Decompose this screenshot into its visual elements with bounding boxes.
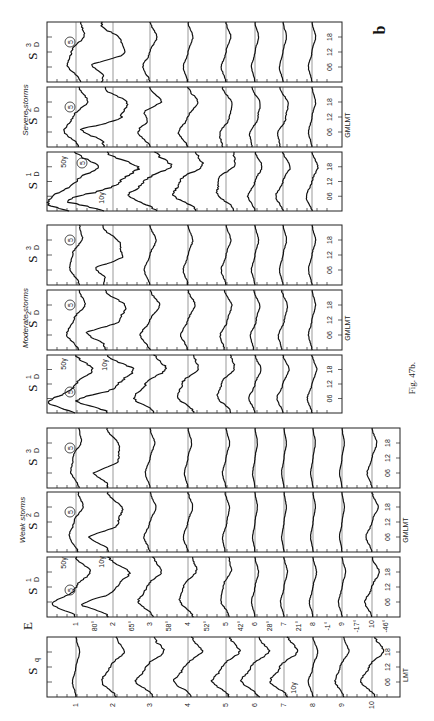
latitude-label: -46° — [382, 619, 389, 632]
panel-sup: 3 — [25, 449, 32, 453]
hour-label-06: 06 — [326, 128, 333, 136]
station-number-1: 1 — [72, 622, 79, 626]
station-trace — [92, 22, 125, 82]
panel-symbol: S — [25, 384, 40, 391]
panel-symbol: S — [25, 255, 40, 262]
station-trace — [52, 557, 90, 617]
moderate-sd1: 061218550γ10γS1D — [25, 355, 342, 413]
panel-symbol: S — [25, 587, 40, 594]
panel-symbol: S — [25, 458, 40, 465]
station-trace — [96, 225, 123, 285]
panel-sub: D — [33, 448, 40, 453]
panel-sup: 2 — [25, 311, 32, 315]
panel-symbol: S — [25, 320, 40, 327]
latitude-label: -1° — [324, 621, 331, 630]
severe-sd1: 061218550γ10γS1D — [25, 152, 342, 211]
component-e-label: E — [20, 622, 35, 630]
hour-label-12: 12 — [326, 113, 333, 121]
circled-marker-label: 5 — [67, 105, 74, 109]
hour-label-06: 06 — [326, 266, 333, 274]
moderate-storms-title: Moderate storms — [21, 288, 30, 348]
scale-note: 50γ — [60, 358, 68, 370]
circled-marker-label: 5 — [67, 238, 74, 242]
panel-sub: D — [33, 107, 40, 112]
hour-label-18: 18 — [384, 648, 391, 656]
panel-frame — [47, 355, 342, 413]
hour-label-18: 18 — [326, 366, 333, 374]
figure-caption: Fig. 47b. — [407, 362, 417, 394]
hour-label-18: 18 — [326, 236, 333, 244]
moderate-sd3: 0612185S3D — [25, 225, 342, 285]
sq-station-number-10: 10 — [368, 701, 375, 709]
latitude-label: 21° — [295, 621, 302, 632]
hour-label-12: 12 — [384, 583, 391, 591]
latitude-label: 52° — [203, 621, 210, 632]
panel-label-moderate-sd1: S1D — [25, 374, 40, 392]
hour-label-18: 18 — [384, 568, 391, 576]
panel-sup: 1 — [25, 173, 32, 177]
panel-symbol: S — [25, 117, 40, 124]
hour-label-18: 18 — [384, 439, 391, 447]
panel-sup: 2 — [25, 513, 32, 517]
time-axis-label: GMLMT — [402, 517, 409, 543]
station-number-8: 8 — [309, 622, 316, 626]
station-number-9: 9 — [338, 622, 345, 626]
sq-station-number-3: 3 — [146, 703, 153, 707]
panel-frame — [47, 225, 342, 285]
panel-sup: 2 — [25, 108, 32, 112]
sq-station-number-1: 1 — [72, 703, 79, 707]
panel-frame — [47, 152, 342, 211]
panel-label-severe-sd1: S1D — [25, 171, 40, 189]
panel-sup: 1 — [25, 375, 32, 379]
hour-label-06: 06 — [326, 63, 333, 71]
sq-station-number-7: 7 — [280, 703, 287, 707]
circled-marker-label: 5 — [79, 161, 86, 165]
sq-station-number-6: 6 — [251, 703, 258, 707]
station-trace — [138, 557, 162, 617]
hour-label-12: 12 — [384, 454, 391, 462]
latitude-label: -17° — [353, 619, 360, 632]
panel-sub: D — [33, 171, 40, 176]
weak-sd1: 061218550γ10γS1D — [25, 556, 400, 617]
scale-note: 10γ — [98, 192, 106, 204]
sq-station-number-4: 4 — [184, 703, 191, 707]
panel-symbol: S — [25, 522, 40, 529]
panel-symbol: S — [25, 182, 40, 189]
station-trace — [82, 557, 131, 617]
circled-marker-label: 5 — [67, 40, 74, 44]
hour-label-18: 18 — [326, 163, 333, 171]
hour-label-12: 12 — [326, 380, 333, 388]
moderate-sd2: 0612185S2DGMLMT — [25, 290, 351, 350]
station-trace — [89, 492, 123, 552]
hour-label-06: 06 — [384, 533, 391, 541]
station-trace — [93, 428, 119, 488]
scale-note: 10γ — [290, 682, 298, 694]
hour-label-12: 12 — [384, 663, 391, 671]
hour-label-12: 12 — [384, 518, 391, 526]
latitude-label: 58° — [165, 621, 172, 632]
latitude-label: 28° — [266, 621, 273, 632]
figure-letter: b — [371, 25, 388, 34]
circled-marker-label: 5 — [67, 303, 74, 307]
scale-note: 50γ — [60, 156, 68, 168]
panels-container: 0612185S3D0612185S2DGMLMT061218550γ10γS1… — [25, 22, 409, 709]
hour-label-06: 06 — [384, 469, 391, 477]
figure-47b: b Fig. 47b. Severe storms Moderate storm… — [0, 0, 434, 721]
hour-label-12: 12 — [326, 316, 333, 324]
hour-label-12: 12 — [326, 48, 333, 56]
latitude-label: 80° — [91, 621, 98, 632]
severe-sd3: 0612185S3D — [25, 22, 342, 82]
panel-sub: D — [33, 374, 40, 379]
station-number-2: 2 — [109, 622, 116, 626]
hour-label-06: 06 — [326, 395, 333, 403]
panel-label-weak-sd2: S2D — [25, 512, 40, 530]
hour-label-18: 18 — [326, 98, 333, 106]
circled-marker-label: 5 — [67, 446, 74, 450]
hour-label-06: 06 — [384, 678, 391, 686]
sq-station-number-5: 5 — [222, 703, 229, 707]
panel-sub: D — [33, 42, 40, 47]
panel-sup: 3 — [25, 246, 32, 250]
panel-label-severe-sd3: S3D — [25, 42, 40, 60]
panel-symbol: S — [25, 52, 40, 59]
latitude-label: 65° — [128, 621, 135, 632]
